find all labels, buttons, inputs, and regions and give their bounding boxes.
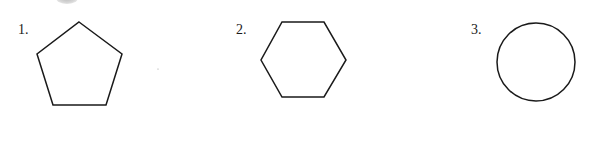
shapes-canvas <box>0 0 611 155</box>
pentagon-shape <box>37 22 122 105</box>
hexagon-shape <box>261 22 346 97</box>
stray-dot <box>157 68 158 69</box>
circle-shape <box>497 23 575 101</box>
